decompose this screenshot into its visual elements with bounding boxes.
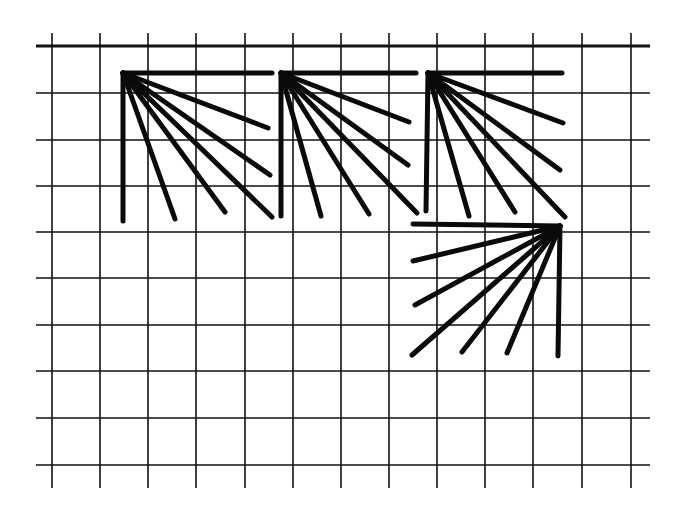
- fan-2: [281, 73, 417, 216]
- stitch-ray: [428, 73, 515, 212]
- stitch-ray: [558, 226, 560, 356]
- stitch-ray: [428, 73, 560, 170]
- stitch-ray: [413, 224, 560, 226]
- stitch-ray: [428, 73, 563, 123]
- fan-4: [412, 224, 560, 356]
- fan-1: [123, 73, 272, 221]
- stitch-ray: [426, 73, 428, 211]
- stitch-ray: [123, 73, 272, 217]
- stitch-diagram: [0, 0, 683, 513]
- stitch-ray: [281, 73, 369, 214]
- fan-stitches: [123, 73, 565, 356]
- fan-3: [426, 73, 565, 217]
